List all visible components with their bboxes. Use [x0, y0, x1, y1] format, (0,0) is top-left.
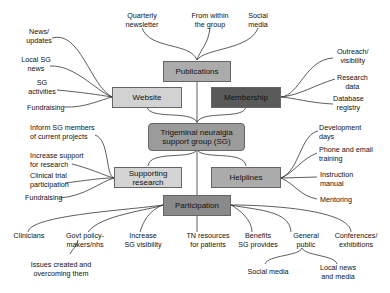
- node-label: Publications: [175, 67, 218, 76]
- label-line: media: [248, 20, 268, 29]
- label-line: data: [337, 82, 368, 91]
- node-label-line: support group (SG): [162, 137, 230, 146]
- label-line: Research: [337, 73, 368, 82]
- label-line: From within: [191, 11, 228, 20]
- node-supporting-research: Supporting research: [114, 167, 182, 188]
- label-line: the group: [191, 20, 228, 29]
- label-line: Quarterly: [126, 11, 159, 20]
- leaf-research-data: Researchdata: [337, 73, 368, 91]
- node-label-line: research: [132, 178, 163, 187]
- label-line: Issues created and: [31, 260, 92, 269]
- label-line: overcoming them: [31, 269, 92, 278]
- label-line: Benefits: [238, 231, 278, 240]
- label-line: Mentoring: [320, 195, 352, 204]
- leaf-phone-email-training: Phone and emailtraining: [319, 145, 373, 163]
- label-line: Fundraising: [27, 103, 65, 112]
- label-line: visibility: [337, 56, 369, 65]
- label-line: Local news: [320, 263, 356, 272]
- leaf-conferences: Conferences/exhibitions: [335, 231, 378, 249]
- label-line: Social: [248, 11, 268, 20]
- label-line: Fundraising: [25, 193, 63, 202]
- leaf-fundraising-website: Fundraising: [27, 103, 65, 112]
- node-membership: Membership: [211, 87, 281, 108]
- label-line: for research: [30, 160, 84, 169]
- label-line: for patients: [186, 240, 229, 249]
- node-label: Helplines: [230, 173, 263, 182]
- label-line: SG: [28, 78, 56, 87]
- label-line: newsletter: [126, 20, 159, 29]
- node-participation: Participation: [163, 195, 231, 216]
- label-line: General: [293, 231, 319, 240]
- leaf-local-news-media: Local newsand media: [320, 263, 356, 281]
- label-line: Social media: [247, 267, 288, 276]
- leaf-local-sg-news: Local SGnews: [21, 55, 51, 73]
- label-line: training: [319, 154, 373, 163]
- label-line: Increase: [124, 231, 161, 240]
- node-center: Trigeminal neuralgia support group (SG): [148, 123, 245, 151]
- node-label: Participation: [175, 201, 219, 210]
- leaf-benefits: BenefitsSG provides: [238, 231, 278, 249]
- leaf-increase-visibility: IncreaseSG visibility: [124, 231, 161, 249]
- leaf-development-days: Developmentdays: [319, 123, 361, 141]
- label-line: SG provides: [238, 240, 278, 249]
- node-publications: Publications: [163, 61, 231, 82]
- node-label: Website: [133, 93, 162, 102]
- node-helplines: Helplines: [211, 167, 281, 188]
- node-label-line: Trigeminal neuralgia: [160, 128, 232, 137]
- label-line: participation: [30, 180, 69, 189]
- label-line: News/: [26, 27, 52, 36]
- leaf-database-registry: Databaseregistry: [333, 94, 364, 112]
- leaf-clinicians: Clinicians: [14, 231, 45, 240]
- label-line: SG visibility: [124, 240, 161, 249]
- leaf-social-media: Socialmedia: [248, 11, 268, 29]
- leaf-tn-resources: TN resourcesfor patients: [186, 231, 229, 249]
- leaf-general-public: Generalpublic: [293, 231, 319, 249]
- leaf-outreach-visibility: Outreach/visibility: [337, 47, 369, 65]
- label-line: public: [293, 240, 319, 249]
- label-line: Conferences/: [335, 231, 378, 240]
- label-line: Outreach/: [337, 47, 369, 56]
- label-line: days: [319, 132, 361, 141]
- label-line: updates: [26, 36, 52, 45]
- leaf-sg-activities: SGactivities: [28, 78, 56, 96]
- leaf-from-within-group: From withinthe group: [191, 11, 228, 29]
- label-line: Increase support: [30, 151, 84, 160]
- leaf-clinical-trial: Clinical trialparticipation: [30, 171, 69, 189]
- leaf-news-updates: News/updates: [26, 27, 52, 45]
- label-line: Phone and email: [319, 145, 373, 154]
- label-line: Instruction: [320, 170, 353, 179]
- label-line: Development: [319, 123, 361, 132]
- leaf-instruction-manual: Instructionmanual: [320, 170, 353, 188]
- label-line: and media: [320, 272, 356, 281]
- leaf-increase-support: Increase supportfor research: [30, 151, 84, 169]
- label-line: makers/nhs: [66, 240, 104, 249]
- label-line: Inform SG members: [30, 123, 95, 132]
- leaf-fundraising-research: Fundraising: [25, 193, 63, 202]
- label-line: registry: [333, 103, 364, 112]
- leaf-quarterly-newsletter: Quarterlynewsletter: [126, 11, 159, 29]
- label-line: exhibitions: [335, 240, 378, 249]
- node-label: Membership: [224, 93, 268, 102]
- leaf-govt-policy-makers: Govt policy-makers/nhs: [66, 231, 104, 249]
- label-line: Clinicians: [14, 231, 45, 240]
- label-line: of current projects: [30, 132, 95, 141]
- label-line: Clinical trial: [30, 171, 69, 180]
- node-website: Website: [112, 87, 182, 108]
- label-line: Local SG: [21, 55, 51, 64]
- label-line: TN resources: [186, 231, 229, 240]
- label-line: Govt policy-: [66, 231, 104, 240]
- node-label-line: Supporting: [129, 169, 168, 178]
- label-line: manual: [320, 179, 353, 188]
- leaf-public-social-media: Social media: [247, 267, 288, 276]
- label-line: activities: [28, 87, 56, 96]
- label-line: news: [21, 64, 51, 73]
- label-line: Database: [333, 94, 364, 103]
- leaf-inform-members: Inform SG membersof current projects: [30, 123, 95, 141]
- leaf-issues-created: Issues created andovercoming them: [31, 260, 92, 278]
- leaf-mentoring: Mentoring: [320, 195, 352, 204]
